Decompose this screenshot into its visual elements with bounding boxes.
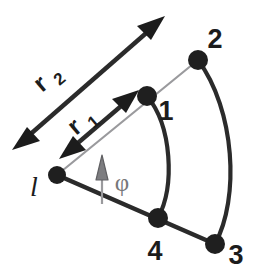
figure-canvas: l 1 2 3 4 r 1 r 2 φ bbox=[0, 0, 263, 272]
measure-label-r2: r 2 bbox=[27, 58, 69, 101]
vertex-node-4 bbox=[148, 208, 168, 228]
measure-label-r2-subscript: 2 bbox=[50, 69, 69, 90]
annular-sector-diagram: l 1 2 3 4 r 1 r 2 φ bbox=[0, 0, 263, 272]
vertex-node-apex bbox=[48, 166, 66, 184]
vertex-label-2: 2 bbox=[207, 24, 222, 54]
angle-label-phi: φ bbox=[115, 169, 129, 196]
vertex-node-1 bbox=[137, 86, 157, 106]
label-group: l 1 2 3 4 r 1 r 2 φ bbox=[27, 24, 243, 270]
vertex-node-3 bbox=[205, 234, 225, 254]
measure-label-r2-base: r bbox=[27, 69, 53, 97]
edge-ray-lower bbox=[57, 175, 215, 244]
vertex-label-4: 4 bbox=[147, 236, 162, 266]
vertex-label-apex: l bbox=[30, 171, 38, 202]
vertex-node-2 bbox=[188, 50, 208, 70]
measure-label-r1: r 1 bbox=[61, 101, 103, 144]
vertex-label-1: 1 bbox=[158, 96, 173, 126]
measure-label-r1-base: r bbox=[61, 112, 87, 140]
edge-arc-outer bbox=[198, 60, 230, 244]
phi-arrow-head-icon bbox=[96, 155, 108, 180]
vertex-label-3: 3 bbox=[228, 240, 243, 270]
